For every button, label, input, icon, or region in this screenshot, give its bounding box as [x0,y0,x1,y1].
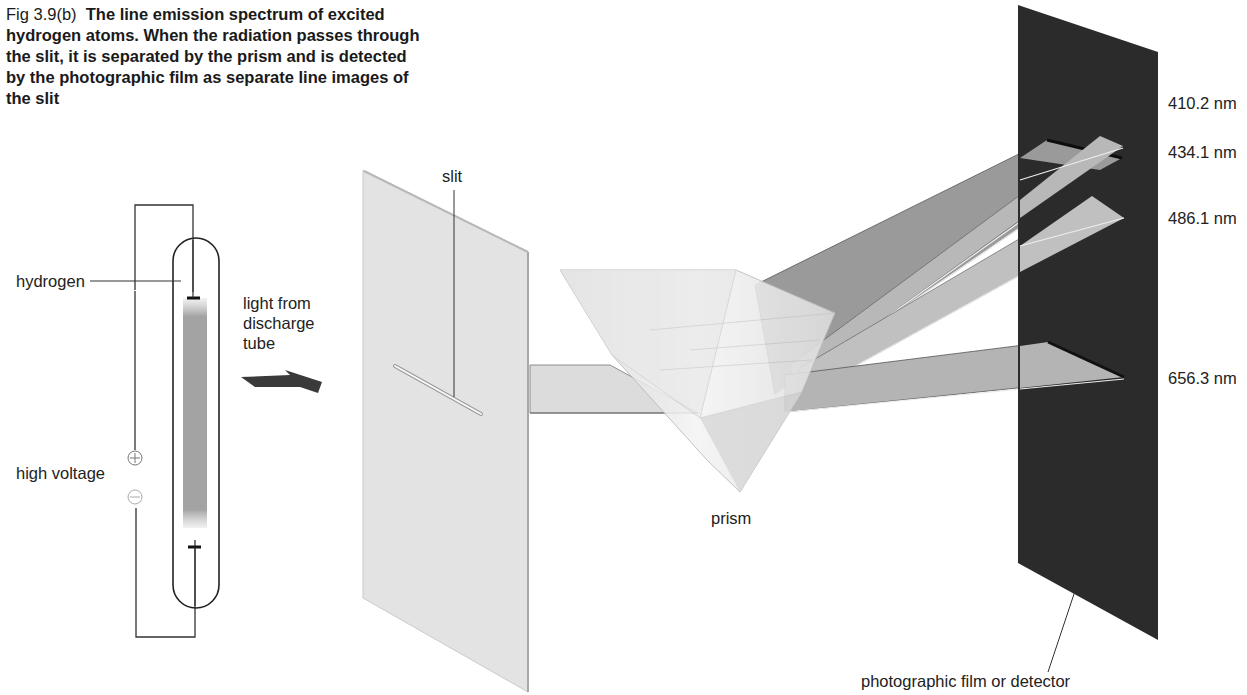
wavelength-label-486: 486.1 nm [1168,208,1237,228]
label-slit: slit [442,166,462,186]
positive-terminal-icon [128,451,142,465]
wavelength-label-656: 656.3 nm [1168,368,1237,388]
label-hydrogen: hydrogen [16,271,85,291]
label-detector: photographic film or detector [861,671,1070,691]
negative-terminal-icon [128,490,142,504]
label-high-voltage: high voltage [16,463,105,483]
figure-number: Fig 3.9(b) [6,5,77,23]
photographic-film-detector[interactable] [1018,5,1158,640]
figure-caption: Fig 3.9(b) The line emission spectrum of… [6,4,426,109]
light-arrow-icon [241,370,322,393]
label-prism: prism [711,508,751,528]
wavelength-label-434: 434.1 nm [1168,142,1237,162]
label-light-source: light from discharge tube [243,293,323,353]
discharge-tube [173,238,219,608]
detector-leader-line [1048,591,1075,672]
slit-screen [363,170,528,692]
wavelength-label-410: 410.2 nm [1168,93,1237,113]
